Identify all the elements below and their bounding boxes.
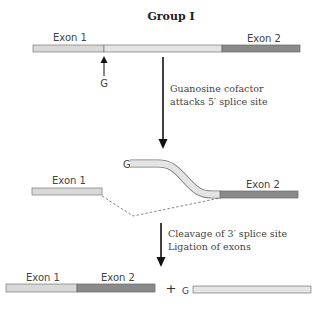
ligated-exon2 <box>77 284 155 292</box>
step-arrow-1: Guanosine cofactor attacks 5′ splice sit… <box>159 57 268 149</box>
precursor-rna: Exon 1 Exon 2 G <box>33 32 300 89</box>
exon2-label-intermediate: Exon 2 <box>246 179 280 190</box>
intron-segment <box>104 45 222 52</box>
g-label-intermediate: G <box>123 159 131 170</box>
group-i-splicing-diagram: Group I Exon 1 Exon 2 G Guanosine cofact… <box>0 0 323 310</box>
excised-intron <box>193 286 311 293</box>
arrowhead-down-icon <box>157 257 166 267</box>
exon2-label-product: Exon 2 <box>101 272 135 283</box>
exon2-label: Exon 2 <box>247 33 281 44</box>
plus-sign: + <box>166 281 177 296</box>
cleaved-link-dashed <box>102 196 220 216</box>
arrow2-caption-line1: Cleavage of 3′ splice site <box>168 228 288 239</box>
exon2-segment <box>222 45 300 52</box>
exon1-label-product: Exon 1 <box>26 272 60 283</box>
arrowhead-up-icon <box>101 56 108 63</box>
arrow1-caption-line1: Guanosine cofactor <box>170 83 264 94</box>
step-arrow-2: Cleavage of 3′ splice site Ligation of e… <box>157 223 288 267</box>
intermediate: G Exon 2 Exon 1 <box>32 159 298 216</box>
g-label-product: G <box>182 286 189 296</box>
ligated-exon1 <box>6 284 77 292</box>
arrowhead-down-icon <box>159 139 168 149</box>
intron-segment-bent <box>130 164 221 195</box>
diagram-title: Group I <box>147 10 194 23</box>
exon1-segment-intermediate <box>32 188 102 195</box>
exon1-label-intermediate: Exon 1 <box>52 175 86 186</box>
arrow1-caption-line2: attacks 5′ splice site <box>170 96 268 107</box>
products: Exon 1 Exon 2 + G <box>6 272 311 296</box>
arrow2-caption-line2: Ligation of exons <box>168 241 251 252</box>
exon2-segment-intermediate <box>220 191 298 198</box>
exon1-label: Exon 1 <box>53 32 87 43</box>
exon1-segment <box>33 45 104 52</box>
g-label: G <box>100 78 108 89</box>
